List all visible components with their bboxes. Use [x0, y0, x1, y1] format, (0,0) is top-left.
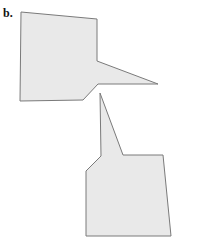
figure-canvas [0, 0, 201, 252]
upper-polygon [20, 12, 158, 101]
lower-polygon [86, 93, 171, 236]
